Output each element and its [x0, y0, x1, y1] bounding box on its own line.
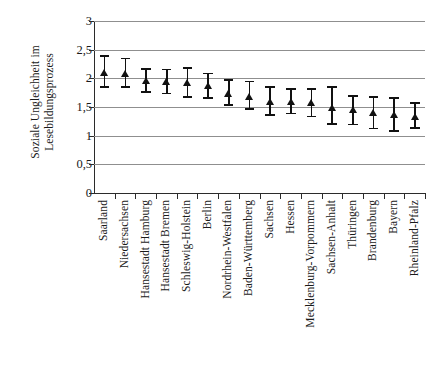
y-tick-label: 0 [64, 187, 92, 200]
error-bar-cap-lower [141, 91, 151, 93]
error-bar-cap-lower [100, 86, 110, 88]
x-tick-mark [135, 193, 136, 199]
marker-triangle [224, 90, 232, 97]
error-bar-cap-upper [369, 96, 379, 98]
marker-triangle [266, 98, 274, 105]
gridline [94, 107, 425, 108]
x-category-label-text: Schleswig-Holstein [181, 200, 193, 292]
x-tick-mark [260, 193, 261, 199]
y-tick-mark [89, 164, 94, 165]
x-category-label-text: Hansestadt Hamburg [140, 200, 152, 298]
error-bar-cap-upper [307, 88, 317, 90]
error-bar-cap-lower [369, 128, 379, 130]
y-tick-mark [89, 50, 94, 51]
x-tick-mark [425, 193, 426, 199]
x-tick-mark [115, 193, 116, 199]
x-category-label-text: Sachsen-Anhalt [326, 200, 338, 274]
error-bar-cap-lower [265, 114, 275, 116]
marker-triangle [142, 77, 150, 84]
x-tick-mark [301, 193, 302, 199]
error-bar-cap-upper [100, 55, 110, 57]
y-axis-tick-labels: 00,511,522,53 [62, 0, 92, 220]
marker-triangle [369, 109, 377, 116]
x-category-label-text: Rheinland-Pfalz [409, 200, 421, 276]
error-bar-cap-lower [162, 93, 172, 95]
error-bar-cap-upper [348, 95, 358, 97]
x-category-label-text: Berlin [202, 200, 214, 229]
x-category-label-text: Brandenburg [368, 200, 380, 261]
error-bar-cap-upper [265, 86, 275, 88]
error-bar-cap-upper [141, 68, 151, 70]
gridline [94, 21, 425, 22]
y-axis-title-line-1: Soziale Ungleichheit im [28, 45, 42, 158]
x-category-label-text: Hessen [285, 200, 297, 234]
error-bar-cap-upper [183, 67, 193, 69]
y-tick-label: 2 [64, 72, 92, 85]
y-tick-label: 3 [64, 15, 92, 28]
marker-triangle [204, 82, 212, 89]
gridline [94, 136, 425, 137]
error-bar-cap-upper [389, 97, 399, 99]
y-tick-mark [89, 193, 94, 194]
x-tick-mark [156, 193, 157, 199]
x-category-label-text: Bayern [388, 200, 400, 234]
x-category-label-text: Baden-Württemberg [243, 200, 255, 296]
error-bar-cap-lower [389, 130, 399, 132]
y-tick-mark [89, 136, 94, 137]
marker-triangle [183, 79, 191, 86]
error-bar-cap-upper [121, 58, 131, 60]
error-bar-cap-lower [348, 124, 358, 126]
plot-area [94, 21, 425, 193]
error-bar-cap-lower [203, 97, 213, 99]
gridline [94, 50, 425, 51]
x-tick-mark [239, 193, 240, 199]
error-bar-cap-lower [286, 113, 296, 115]
chart-figure: Soziale Ungleichheit im Lesebildungsproz… [0, 0, 445, 370]
error-bar-cap-lower [245, 108, 255, 110]
x-category-label-text: Saarland [99, 200, 111, 241]
x-category-label-text: Mecklenburg-Vorpommern [305, 200, 317, 328]
x-category-label-text: Hansestadt Bremen [161, 200, 173, 291]
x-category-label-text: Sachsen [264, 200, 276, 238]
x-tick-mark [322, 193, 323, 199]
marker-triangle [121, 70, 129, 77]
x-tick-mark [197, 193, 198, 199]
marker-triangle [100, 69, 108, 76]
marker-triangle [390, 111, 398, 118]
x-category-label-text: Thüringen [347, 200, 359, 249]
marker-triangle [245, 93, 253, 100]
error-bar-cap-upper [203, 73, 213, 75]
marker-triangle [349, 106, 357, 113]
gridline [94, 164, 425, 165]
y-tick-label: 0,5 [64, 158, 92, 171]
marker-triangle [411, 113, 419, 120]
marker-triangle [162, 78, 170, 85]
error-bar-cap-lower [224, 104, 234, 106]
x-tick-mark [363, 193, 364, 199]
x-tick-mark [342, 193, 343, 199]
x-axis-category-labels: SaarlandNiedersachsenHansestadt HamburgH… [94, 200, 425, 360]
y-tick-label: 1 [64, 129, 92, 142]
x-tick-mark [177, 193, 178, 199]
error-bar-cap-upper [162, 69, 172, 71]
y-tick-mark [89, 107, 94, 108]
x-category-label-text: Nordrhein-Westfalen [223, 200, 235, 299]
x-tick-mark [384, 193, 385, 199]
x-tick-mark [280, 193, 281, 199]
y-tick-mark [89, 78, 94, 79]
x-tick-mark [404, 193, 405, 199]
error-bar-cap-upper [245, 81, 255, 83]
marker-triangle [328, 104, 336, 111]
error-bar-cap-upper [224, 79, 234, 81]
y-tick-mark [89, 21, 94, 22]
error-bar-cap-lower [307, 116, 317, 118]
error-bar-cap-upper [286, 88, 296, 90]
y-tick-label: 2,5 [64, 43, 92, 56]
error-bar-cap-upper [327, 86, 337, 88]
error-bar-cap-lower [121, 86, 131, 88]
marker-triangle [287, 98, 295, 105]
error-bar-cap-lower [183, 96, 193, 98]
marker-triangle [307, 99, 315, 106]
x-tick-mark [218, 193, 219, 199]
x-category-label-text: Niedersachsen [119, 200, 131, 268]
